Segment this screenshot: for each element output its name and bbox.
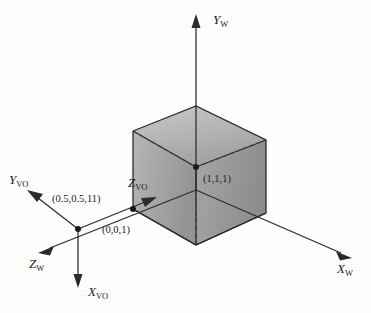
diagram-canvas: YW XW ZW XVO YVO ZVO (1,1,1) (0,0,1) (0.… — [0, 0, 371, 313]
axis-label-z-vo-sub: VO — [135, 182, 147, 192]
axis-label-x-vo-sub: VO — [96, 291, 108, 301]
axis-label-x-vo: XVO — [87, 284, 108, 301]
point-cube-origin-dot — [130, 206, 136, 212]
axis-label-x-world-sub: W — [345, 268, 353, 278]
axis-label-y-vo: YVO — [9, 172, 29, 189]
axis-label-x-world: XW — [336, 261, 353, 278]
point-cube-center-dot — [193, 164, 199, 170]
z-world-arrowhead — [38, 246, 54, 256]
coordinate-frame-diagram: YW XW ZW XVO YVO ZVO (1,1,1) (0,0,1) (0.… — [0, 0, 371, 313]
point-label-cube-center: (1,1,1) — [203, 173, 231, 185]
vo-axes — [27, 190, 157, 288]
point-label-cube-origin: (0,0,1) — [102, 224, 130, 236]
axis-label-y-world: YW — [213, 12, 228, 29]
x-vo-arrowhead — [74, 274, 83, 288]
axis-label-y-vo-sub: VO — [16, 179, 28, 189]
axis-label-z-world-sub: W — [36, 263, 44, 273]
x-world-arrowhead — [336, 252, 352, 261]
cube-faces — [133, 106, 266, 245]
point-label-vo-origin: (0.5,0.5,11) — [52, 193, 101, 205]
y-world-arrowhead — [192, 14, 201, 28]
point-vo-origin-dot — [75, 226, 81, 232]
axis-label-y-world-sub: W — [220, 19, 228, 29]
axis-label-z-world: ZW — [29, 256, 44, 273]
